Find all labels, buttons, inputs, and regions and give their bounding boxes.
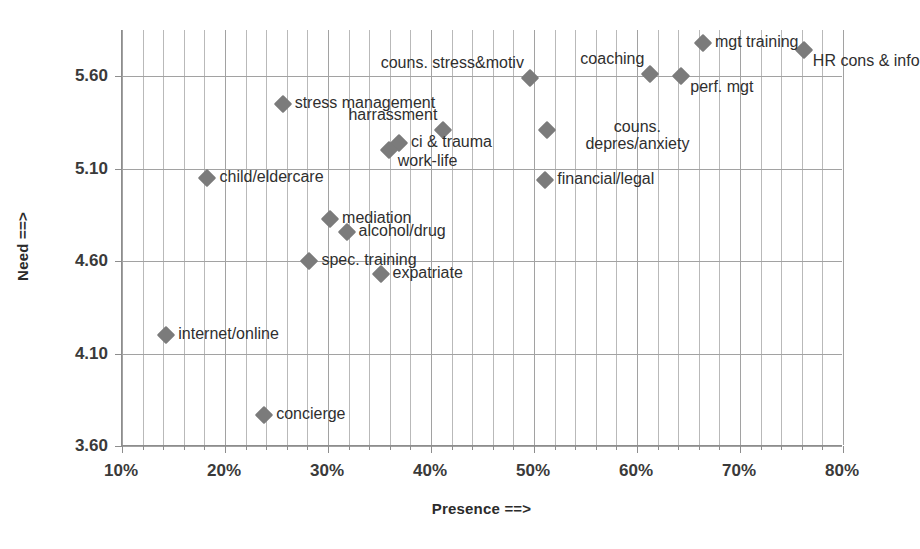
tick-x-major	[431, 446, 432, 453]
gridline-vertical-minor	[143, 30, 144, 445]
gridline-vertical-minor	[266, 30, 267, 445]
tick-x-major	[122, 446, 123, 453]
gridline-vertical-major	[843, 30, 844, 445]
tick-x-minor	[575, 446, 576, 450]
gridline-vertical-minor	[287, 30, 288, 445]
tick-x-minor	[143, 446, 144, 450]
tick-x-minor	[266, 446, 267, 450]
tick-x-minor	[472, 446, 473, 450]
data-point-label: couns. stress&motiv	[381, 54, 524, 71]
data-point-marker	[157, 326, 175, 344]
tick-x-minor	[349, 446, 350, 450]
x-tick-label: 10%	[104, 461, 138, 481]
gridline-vertical-minor	[513, 30, 514, 445]
x-tick-label: 40%	[413, 461, 447, 481]
data-point-label: expatriate	[393, 264, 463, 281]
data-point-label: work-life	[398, 152, 458, 169]
gridline-vertical-major	[122, 30, 123, 445]
gridline-vertical-minor	[204, 30, 205, 445]
gridline-horizontal	[122, 261, 842, 262]
tick-x-minor	[410, 446, 411, 450]
data-point-label: coaching	[580, 50, 644, 67]
x-tick-label: 60%	[619, 461, 653, 481]
data-point-label: perf. mgt	[690, 78, 753, 95]
gridline-vertical-minor	[555, 30, 556, 445]
tick-x-minor	[658, 446, 659, 450]
tick-x-minor	[781, 446, 782, 450]
tick-x-minor	[616, 446, 617, 450]
x-tick-label: 50%	[516, 461, 550, 481]
gridline-vertical-minor	[761, 30, 762, 445]
data-point-label: mgt training	[715, 33, 799, 50]
gridline-vertical-major	[225, 30, 226, 445]
plot-area: stress managementharrassmentci & traumaw…	[121, 30, 842, 446]
tick-y	[115, 261, 122, 262]
tick-x-minor	[163, 446, 164, 450]
gridline-horizontal	[122, 76, 842, 77]
data-point-marker	[300, 252, 318, 270]
data-point-marker	[694, 34, 712, 52]
gridline-vertical-minor	[307, 30, 308, 445]
tick-x-minor	[287, 446, 288, 450]
tick-x-minor	[390, 446, 391, 450]
data-point-label: internet/online	[178, 325, 279, 342]
tick-x-major	[637, 446, 638, 453]
gridline-vertical-minor	[246, 30, 247, 445]
tick-x-minor	[802, 446, 803, 450]
tick-x-minor	[493, 446, 494, 450]
x-tick-label: 70%	[722, 461, 756, 481]
tick-y	[115, 354, 122, 355]
gridline-vertical-minor	[616, 30, 617, 445]
tick-x-minor	[719, 446, 720, 450]
tick-x-minor	[678, 446, 679, 450]
tick-y	[115, 446, 122, 447]
x-tick-label: 30%	[310, 461, 344, 481]
x-tick-label: 80%	[825, 461, 859, 481]
y-tick-label: 3.60	[0, 436, 108, 456]
gridline-vertical-minor	[596, 30, 597, 445]
tick-x-minor	[246, 446, 247, 450]
tick-x-major	[740, 446, 741, 453]
tick-x-major	[534, 446, 535, 453]
data-point-label: harrassment	[348, 106, 437, 123]
data-point-marker	[672, 67, 690, 85]
tick-x-minor	[452, 446, 453, 450]
tick-x-minor	[184, 446, 185, 450]
gridline-horizontal	[122, 354, 842, 355]
x-axis-title: Presence ==>	[121, 500, 842, 517]
data-point-marker	[536, 171, 554, 189]
tick-x-minor	[369, 446, 370, 450]
tick-x-minor	[822, 446, 823, 450]
data-point-label: couns.depres/anxiety	[585, 118, 689, 153]
tick-x-minor	[596, 446, 597, 450]
data-point-marker	[273, 95, 291, 113]
data-point-marker	[255, 405, 273, 423]
gridline-vertical-major	[637, 30, 638, 445]
gridline-vertical-minor	[802, 30, 803, 445]
tick-x-major	[225, 446, 226, 453]
tick-x-major	[843, 446, 844, 453]
tick-y	[115, 169, 122, 170]
tick-x-minor	[555, 446, 556, 450]
gridline-vertical-minor	[452, 30, 453, 445]
data-point-marker	[321, 209, 339, 227]
tick-x-minor	[761, 446, 762, 450]
data-point-label: child/eldercare	[219, 168, 323, 185]
gridline-vertical-minor	[575, 30, 576, 445]
data-point-label: financial/legal	[557, 170, 654, 187]
tick-x-minor	[307, 446, 308, 450]
tick-x-minor	[513, 446, 514, 450]
gridline-vertical-major	[328, 30, 329, 445]
data-point-label: concierge	[276, 405, 345, 422]
gridline-vertical-minor	[678, 30, 679, 445]
y-axis-title: Need ==>	[14, 187, 31, 307]
gridline-vertical-minor	[822, 30, 823, 445]
gridline-horizontal	[122, 446, 842, 447]
gridline-vertical-minor	[472, 30, 473, 445]
gridline-vertical-minor	[658, 30, 659, 445]
gridline-vertical-minor	[163, 30, 164, 445]
tick-y	[115, 76, 122, 77]
data-point-label: HR cons & info	[813, 52, 920, 69]
gridline-vertical-major	[534, 30, 535, 445]
